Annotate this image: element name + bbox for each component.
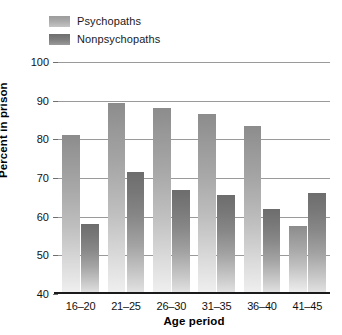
x-tick-label-31-35: 31–35 [202, 300, 232, 312]
legend-swatch-psychopaths [49, 16, 70, 27]
y-tick-label-100: 100 [31, 56, 49, 68]
x-tick-label-36-40: 36–40 [247, 300, 277, 312]
bar-nonpsychopaths-26-30 [172, 190, 190, 294]
bar-nonpsychopaths-41-45 [308, 193, 326, 294]
x-axis-line [54, 292, 330, 294]
bar-chart-figure: Psychopaths Nonpsychopaths Percent in pr… [0, 0, 342, 335]
bar-nonpsychopaths-21-25 [127, 172, 145, 294]
x-tick-label-26-30: 26–30 [157, 300, 187, 312]
x-tick-label-41-45: 41–45 [293, 300, 323, 312]
y-tick-mark-40 [53, 294, 58, 295]
bar-psychopaths-16-20 [62, 135, 80, 294]
y-tick-label-60: 60 [37, 211, 49, 223]
bar-psychopaths-26-30 [153, 108, 171, 294]
plot-area: 405060708090100 16–2021–2526–3031–3536–4… [58, 62, 330, 294]
legend-swatch-nonpsychopaths [49, 34, 70, 45]
y-tick-label-70: 70 [37, 172, 49, 184]
y-tick-label-40: 40 [37, 288, 49, 300]
y-axis-title: Percent in prison [0, 82, 9, 178]
bar-nonpsychopaths-31-35 [217, 195, 235, 294]
bar-nonpsychopaths-16-20 [81, 224, 99, 294]
bars-layer [58, 62, 330, 294]
x-axis-title: Age period [58, 315, 330, 327]
chart-legend: Psychopaths Nonpsychopaths [49, 13, 249, 49]
y-tick-label-90: 90 [37, 95, 49, 107]
x-tick-label-21-25: 21–25 [111, 300, 141, 312]
bar-psychopaths-36-40 [244, 126, 262, 294]
legend-item-psychopaths: Psychopaths [49, 13, 249, 29]
legend-item-nonpsychopaths: Nonpsychopaths [49, 31, 249, 47]
legend-label-nonpsychopaths: Nonpsychopaths [77, 33, 160, 45]
legend-label-psychopaths: Psychopaths [77, 15, 141, 27]
bar-psychopaths-21-25 [108, 103, 126, 294]
bar-psychopaths-41-45 [289, 226, 307, 294]
y-tick-label-80: 80 [37, 133, 49, 145]
x-tick-label-16-20: 16–20 [66, 300, 96, 312]
bar-nonpsychopaths-36-40 [263, 209, 281, 294]
bar-psychopaths-31-35 [198, 114, 216, 294]
y-tick-label-50: 50 [37, 249, 49, 261]
